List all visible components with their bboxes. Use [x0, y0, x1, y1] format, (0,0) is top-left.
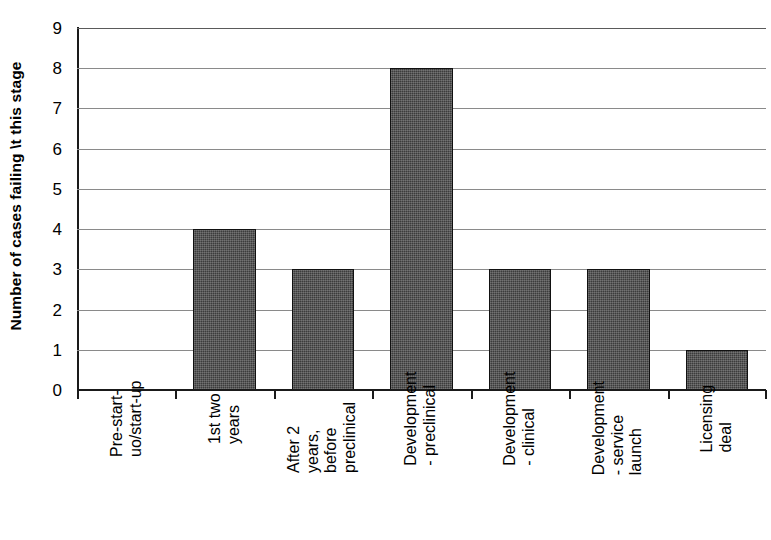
x-axis-tick-label-line: launch — [628, 381, 647, 475]
x-axis-tick-label-line: Licensing — [698, 385, 717, 453]
x-axis-tick — [175, 390, 177, 399]
y-axis-tick-label: 2 — [53, 301, 62, 318]
x-axis-tick-label-line: - clinical — [520, 372, 539, 466]
x-axis-tick-label-line: years, — [304, 402, 323, 473]
x-axis-tick-label: Licensingdeal — [668, 400, 766, 538]
x-axis-tick-label-line: before — [323, 402, 342, 473]
bar-slot — [489, 28, 552, 390]
x-axis-tick-label-line: deal — [717, 385, 736, 453]
bar[interactable] — [193, 229, 256, 390]
y-axis-tick-label: 7 — [53, 100, 62, 117]
y-axis-title-text: Number of cases failing \t this stage — [6, 62, 24, 331]
x-axis-tick — [668, 390, 670, 399]
x-axis-tick-label-line: 1st two — [206, 393, 225, 444]
y-axis-tick-label: 4 — [53, 221, 62, 238]
x-axis-tick — [77, 390, 79, 399]
x-axis-tick-label-line: Development — [501, 372, 520, 466]
y-axis-tick-label: 6 — [53, 140, 62, 157]
bar[interactable] — [292, 269, 355, 390]
y-axis-tick-label: 3 — [53, 261, 62, 278]
x-axis-tick-label: Development- clinical — [471, 400, 569, 538]
y-axis-tick-label: 5 — [53, 180, 62, 197]
x-axis-tick — [372, 390, 374, 399]
x-axis-tick-label-line: preclinical — [342, 402, 361, 473]
x-axis-tick-label: After 2years,beforepreclinical — [274, 400, 372, 538]
x-axis-tick-label: 1st twoyears — [175, 400, 273, 538]
x-axis-tick — [274, 390, 276, 399]
x-axis-tick-label-line: years — [225, 393, 244, 444]
plot-area — [77, 28, 766, 390]
bar-slot — [95, 28, 158, 390]
y-axis-title: Number of cases failing \t this stage — [0, 0, 30, 392]
x-axis-tick-label-line: Development — [403, 372, 422, 466]
bar[interactable] — [390, 68, 453, 390]
bar[interactable] — [587, 269, 650, 390]
bar-slot — [686, 28, 749, 390]
x-axis-tick-label-line: uo/start-up — [126, 380, 145, 456]
bar-series — [77, 28, 766, 390]
bar-slot — [292, 28, 355, 390]
y-axis-tick-labels: 0123456789 — [34, 0, 68, 400]
x-axis-tick-labels: Pre-start-uo/start-up1st twoyearsAfter 2… — [77, 400, 766, 540]
bar-slot — [390, 28, 453, 390]
x-axis-tick-label-line: Pre-start- — [107, 380, 126, 456]
y-axis-tick-label: 0 — [53, 382, 62, 399]
bar-slot — [193, 28, 256, 390]
x-axis-tick-label: Pre-start-uo/start-up — [77, 400, 175, 538]
x-axis-tick-label-line: Development — [590, 381, 609, 475]
x-axis-tick-label: Development- servicelaunch — [569, 400, 667, 538]
x-axis-tick — [569, 390, 571, 399]
bar-chart: Number of cases failing \t this stage 01… — [0, 0, 771, 540]
x-axis-tick-label-line: After 2 — [286, 402, 305, 473]
x-axis-tick-label: Development- preclinical — [372, 400, 470, 538]
y-axis-tick-label: 8 — [53, 60, 62, 77]
x-axis-tick-label-line: - service — [609, 381, 628, 475]
y-axis-tick-label: 9 — [53, 20, 62, 37]
x-axis-tick-label-line: - preclinical — [421, 372, 440, 466]
x-axis-tick — [471, 390, 473, 399]
bar-slot — [587, 28, 650, 390]
y-axis-tick-label: 1 — [53, 341, 62, 358]
